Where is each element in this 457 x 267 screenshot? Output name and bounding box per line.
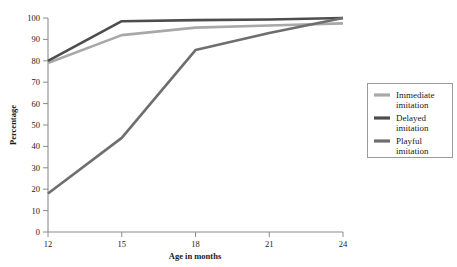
- x-tick-label: 12: [44, 239, 53, 249]
- x-tick-label: 18: [191, 239, 200, 249]
- y-tick-label: 90: [32, 34, 41, 44]
- y-tick-label: 100: [27, 13, 40, 23]
- x-axis-ticks: 1215182124: [44, 232, 348, 249]
- legend-label-immediate-line2: imitation: [396, 100, 429, 110]
- line-chart: 0102030405060708090100 1215182124 Percen…: [0, 0, 457, 267]
- y-tick-label: 60: [32, 99, 41, 109]
- y-tick-label: 80: [32, 56, 41, 66]
- series-line-immediate: [48, 23, 343, 63]
- x-tick-label: 15: [118, 239, 127, 249]
- series-line-playful: [48, 18, 343, 193]
- data-series-group: [48, 18, 343, 193]
- y-tick-label: 30: [32, 163, 41, 173]
- legend-label-playful-line2: imitation: [396, 146, 429, 156]
- legend-label-delayed-line2: imitation: [396, 123, 429, 133]
- legend-label-immediate-line1: Immediate: [396, 90, 434, 100]
- y-tick-label: 40: [32, 141, 41, 151]
- legend: ImmediateimitationDelayedimitationPlayfu…: [368, 84, 453, 158]
- y-tick-label: 20: [32, 184, 41, 194]
- y-axis-ticks: 0102030405060708090100: [27, 13, 48, 237]
- x-axis-title: Age in months: [169, 251, 222, 261]
- y-tick-label: 0: [36, 227, 40, 237]
- y-tick-label: 70: [32, 77, 41, 87]
- y-axis-title: Percentage: [8, 105, 18, 145]
- x-tick-label: 21: [265, 239, 274, 249]
- x-tick-label: 24: [339, 239, 348, 249]
- y-tick-label: 10: [32, 206, 41, 216]
- legend-label-delayed-line1: Delayed: [396, 113, 426, 123]
- y-tick-label: 50: [32, 120, 41, 130]
- legend-label-playful-line1: Playful: [396, 136, 422, 146]
